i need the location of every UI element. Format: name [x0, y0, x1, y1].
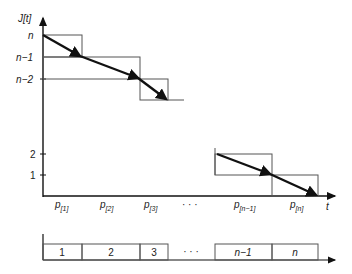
y-tick-n-1: n−1: [16, 52, 33, 63]
arrow-1: [43, 35, 80, 56]
x-label-ellipsis: · · ·: [182, 199, 198, 210]
y-tick-1: 1: [30, 170, 36, 181]
y-tick-2: 2: [30, 149, 36, 160]
x-axis-label: t: [326, 201, 330, 212]
gantt-label-n-1: n−1: [235, 247, 252, 258]
gantt-label-n: n: [292, 247, 298, 258]
arrow-n-1: [217, 154, 270, 174]
y-tick-n-2: n−2: [16, 74, 33, 85]
x-label-p3: p[3]: [143, 199, 158, 213]
y-tick-n: n: [28, 30, 34, 41]
scheduling-diagram: J[t] n n−1 n−2 2 1 p[1] p[2] p[3] · · · …: [0, 0, 352, 274]
gantt-chart: 1 2 3 · · · n−1 n: [43, 234, 335, 260]
x-label-pn: p[n]: [289, 199, 304, 213]
axes: [40, 18, 335, 197]
x-label-p2: p[2]: [99, 199, 114, 213]
x-label-p1: p[1]: [54, 199, 69, 213]
x-labels: p[1] p[2] p[3] · · · p[n−1] p[n] t: [54, 199, 330, 213]
gantt-label-3: 3: [151, 247, 157, 258]
y-axis-label: J[t]: [17, 13, 32, 24]
gantt-label-2: 2: [108, 247, 114, 258]
gantt-ellipsis: · · ·: [183, 246, 199, 257]
arrow-2: [80, 56, 138, 78]
arrow-n: [270, 174, 316, 195]
trajectory: [43, 35, 316, 195]
x-label-pn-1: p[n−1]: [233, 199, 256, 213]
gantt-label-1: 1: [59, 247, 65, 258]
arrow-3: [138, 78, 166, 99]
